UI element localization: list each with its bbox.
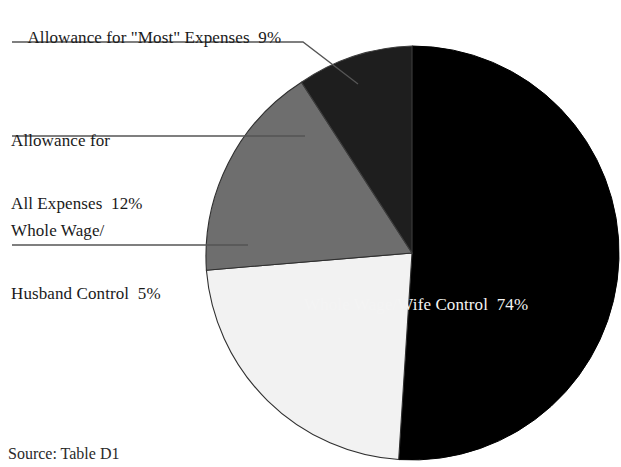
slice-label-all-expenses-line1: Allowance for xyxy=(11,130,143,151)
slice-label-husband-control: Whole Wage/ Husband Control 5% xyxy=(11,178,161,346)
slice-label-wife-control: Whole Wage/Wife Control 74% xyxy=(304,294,528,315)
pie-slice-whole-wage-husband-control xyxy=(206,253,412,460)
slice-label-husband-control-line2: Husband Control 5% xyxy=(11,283,161,304)
slice-label-most-expenses-line1: Allowance for "Most" Expenses 9% xyxy=(27,28,281,47)
pie-slice-whole-wage-wife-control xyxy=(399,46,619,460)
slice-label-husband-control-line1: Whole Wage/ xyxy=(11,220,161,241)
pie-chart-figure: Allowance for "Most" Expenses 9% Allowan… xyxy=(0,0,621,467)
slice-label-most-expenses: Allowance for "Most" Expenses 9% xyxy=(11,6,281,69)
source-note: Source: Table D1 xyxy=(8,444,119,463)
